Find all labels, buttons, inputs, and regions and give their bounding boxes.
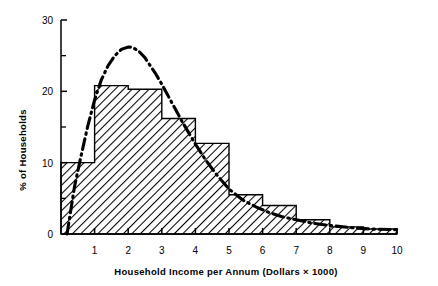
y-axis-tick-label: 0 (47, 229, 53, 240)
x-axis-label: Household Income per Annum (Dollars × 10… (114, 266, 337, 277)
y-axis-label: % of Households (17, 109, 28, 191)
x-axis-tick-label: 9 (361, 245, 367, 256)
x-axis-tick-label: 3 (159, 245, 165, 256)
y-axis-tick-label: 30 (42, 15, 54, 26)
x-axis-tick-label: 8 (327, 245, 333, 256)
x-axis-tick-label: 4 (193, 245, 199, 256)
y-axis-tick-label: 20 (42, 86, 54, 97)
x-axis-tick-label: 7 (293, 245, 299, 256)
histogram-chart-svg: 0102030 12345678910 % of Households Hous… (0, 0, 438, 286)
x-axis-tick-label: 10 (391, 245, 403, 256)
x-axis-tick-label: 5 (226, 245, 232, 256)
x-axis-tick-label: 1 (92, 245, 98, 256)
x-axis-tick-label: 2 (125, 245, 131, 256)
x-axis-tick-label: 6 (260, 245, 266, 256)
y-axis-tick-label: 10 (42, 158, 54, 169)
